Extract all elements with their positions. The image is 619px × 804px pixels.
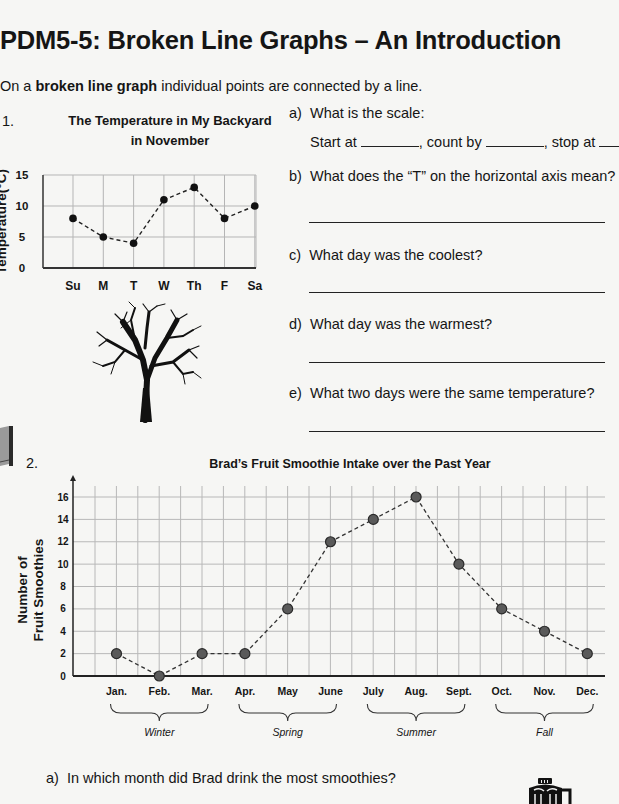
intro-text: On a broken line graph individual points… bbox=[0, 78, 422, 94]
y-tick-label: 10 bbox=[57, 559, 69, 570]
season-brace bbox=[239, 704, 337, 721]
answer-line-1c[interactable] bbox=[309, 292, 605, 293]
data-point bbox=[100, 233, 108, 241]
question-number-2: 2. bbox=[26, 455, 38, 471]
y-tick-label: 10 bbox=[16, 200, 29, 212]
question-number-1: 1. bbox=[2, 113, 14, 129]
x-tick-label: Jan. bbox=[106, 685, 127, 697]
data-point bbox=[130, 239, 138, 247]
data-point bbox=[582, 649, 592, 659]
x-tick-label: July bbox=[363, 685, 384, 697]
y-tick-label: 5 bbox=[19, 231, 26, 243]
stop-at-blank[interactable] bbox=[599, 132, 619, 147]
data-point bbox=[497, 604, 507, 614]
x-tick-label: M bbox=[98, 279, 108, 293]
data-point bbox=[154, 671, 164, 681]
question-1d: d) What day was the warmest? bbox=[289, 316, 492, 332]
question-1a: a) What is the scale: bbox=[289, 105, 424, 121]
x-tick-label: W bbox=[158, 279, 170, 293]
tree-icon bbox=[85, 300, 210, 425]
smoothie-chart-title: Brad’s Fruit Smoothie Intake over the Pa… bbox=[150, 457, 550, 471]
x-tick-label: Aug. bbox=[404, 685, 427, 697]
x-tick-label: Nov. bbox=[534, 685, 556, 697]
data-point bbox=[326, 537, 336, 547]
question-2a: a) In which month did Brad drink the mos… bbox=[46, 770, 396, 786]
y-axis-arrow-icon bbox=[70, 475, 76, 481]
data-point bbox=[454, 559, 464, 569]
start-at-blank[interactable] bbox=[361, 132, 419, 147]
x-tick-label: Th bbox=[187, 279, 202, 293]
y-tick-label: 8 bbox=[60, 581, 66, 592]
data-point bbox=[411, 492, 421, 502]
data-point bbox=[190, 184, 198, 192]
x-tick-label: T bbox=[130, 279, 138, 293]
answer-line-1e[interactable] bbox=[309, 431, 605, 432]
x-tick-label: Su bbox=[65, 279, 80, 293]
count-by-blank[interactable] bbox=[486, 132, 544, 147]
x-tick-label: Sept. bbox=[446, 685, 472, 697]
x-tick-label: Apr. bbox=[235, 685, 256, 697]
x-tick-label: Feb. bbox=[149, 685, 171, 697]
y-tick-label: 4 bbox=[60, 626, 66, 637]
smoothie-chart: 0246810121416Jan.Feb.Mar.Apr.MayJuneJuly… bbox=[0, 470, 605, 770]
data-point bbox=[240, 649, 250, 659]
y-tick-label: 0 bbox=[19, 262, 25, 274]
season-label: Spring bbox=[273, 726, 304, 738]
data-point bbox=[221, 215, 229, 223]
book-icon bbox=[0, 424, 14, 468]
y-tick-label: 16 bbox=[57, 492, 69, 503]
question-1a-scale: Start at , count by , stop at bbox=[310, 132, 619, 150]
x-tick-label: Sa bbox=[247, 279, 262, 293]
data-point bbox=[69, 215, 77, 223]
x-tick-label: May bbox=[277, 685, 298, 697]
season-brace bbox=[111, 704, 209, 721]
data-point bbox=[160, 196, 168, 204]
data-point bbox=[540, 626, 550, 636]
x-tick-label: June bbox=[318, 685, 343, 697]
temperature-y-axis-label: Temperature(°C) bbox=[0, 169, 9, 274]
answer-line-1d[interactable] bbox=[309, 362, 605, 363]
data-point bbox=[197, 649, 207, 659]
y-tick-label: 6 bbox=[60, 603, 66, 614]
temperature-chart-title: The Temperature in My Backyard in Novemb… bbox=[60, 111, 280, 151]
season-brace bbox=[496, 704, 594, 721]
x-tick-label: Mar. bbox=[192, 685, 213, 697]
y-tick-label: 2 bbox=[60, 648, 66, 659]
page-title: PDM5-5: Broken Line Graphs – An Introduc… bbox=[0, 26, 561, 55]
y-tick-label: 0 bbox=[60, 671, 66, 682]
question-1b: b) What does the “T” on the horizontal a… bbox=[289, 168, 615, 184]
season-brace bbox=[367, 704, 465, 721]
data-point bbox=[251, 202, 259, 210]
intro-bold-term: broken line graph bbox=[35, 78, 157, 94]
answer-line-1b[interactable] bbox=[309, 222, 605, 223]
question-1c: c) What day was the coolest? bbox=[289, 247, 482, 263]
question-1e: e) What two days were the same temperatu… bbox=[289, 385, 594, 401]
data-point bbox=[283, 604, 293, 614]
temperature-chart: 051015SuMTWThFSaTemperature(°C) bbox=[0, 150, 290, 300]
y-tick-label: 15 bbox=[16, 169, 29, 181]
season-label: Winter bbox=[144, 726, 175, 738]
blender-icon bbox=[526, 778, 572, 804]
season-label: Fall bbox=[536, 726, 554, 738]
y-tick-label: 12 bbox=[57, 536, 69, 547]
y-tick-label: 14 bbox=[57, 514, 69, 525]
x-tick-label: F bbox=[221, 279, 228, 293]
season-label: Summer bbox=[396, 726, 436, 738]
data-point bbox=[368, 514, 378, 524]
x-tick-label: Oct. bbox=[491, 685, 512, 697]
data-point bbox=[112, 649, 122, 659]
x-tick-label: Dec. bbox=[576, 685, 598, 697]
